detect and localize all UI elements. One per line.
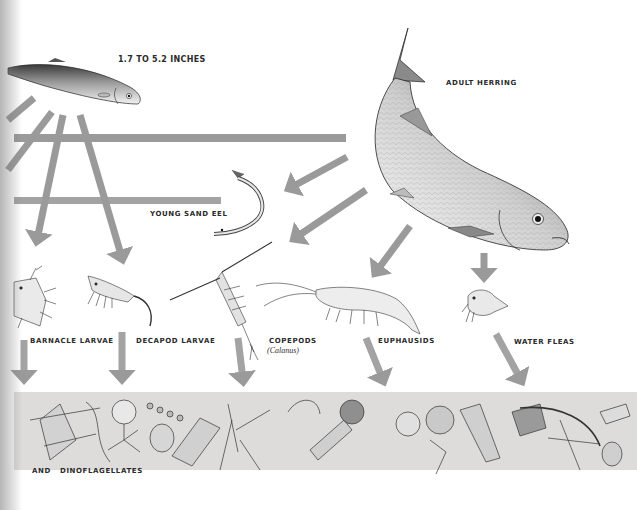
young-sand-eel-label: YOUNG SAND EEL xyxy=(150,210,227,218)
copepods-label: COPEPODS xyxy=(269,337,317,345)
water-fleas-label: WATER FLEAS xyxy=(514,338,575,346)
copepods-genus-label: (Calanus) xyxy=(267,346,299,355)
young-sand-eel-illustration xyxy=(214,170,262,234)
barnacle-larvae-label: BARNACLE LARVAE xyxy=(30,337,114,345)
diagram-artwork xyxy=(0,0,637,510)
plankton-band-label: AND DINOFLAGELLATES xyxy=(32,467,143,475)
scan-edge-shadow xyxy=(0,0,22,510)
juvenile-herring-illustration xyxy=(8,58,140,104)
juvenile-size-label: 1.7 TO 5.2 INCHES xyxy=(118,55,206,64)
euphausids-label: EUPHAUSIDS xyxy=(378,337,435,345)
food-web-diagram: 1.7 TO 5.2 INCHES ADULT HERRING YOUNG SA… xyxy=(0,0,637,510)
decapod-larvae-label: DECAPOD LARVAE xyxy=(136,337,215,345)
horizontal-bars xyxy=(14,134,346,204)
adult-herring-illustration xyxy=(375,28,569,250)
adult-herring-label: ADULT HERRING xyxy=(446,79,517,87)
phytoplankton-illustrations xyxy=(30,400,630,474)
euphausids-illustration xyxy=(256,283,420,334)
juvenile-arrows xyxy=(8,98,122,258)
water-fleas-illustration xyxy=(462,290,508,322)
decapod-larvae-illustration xyxy=(88,276,151,326)
